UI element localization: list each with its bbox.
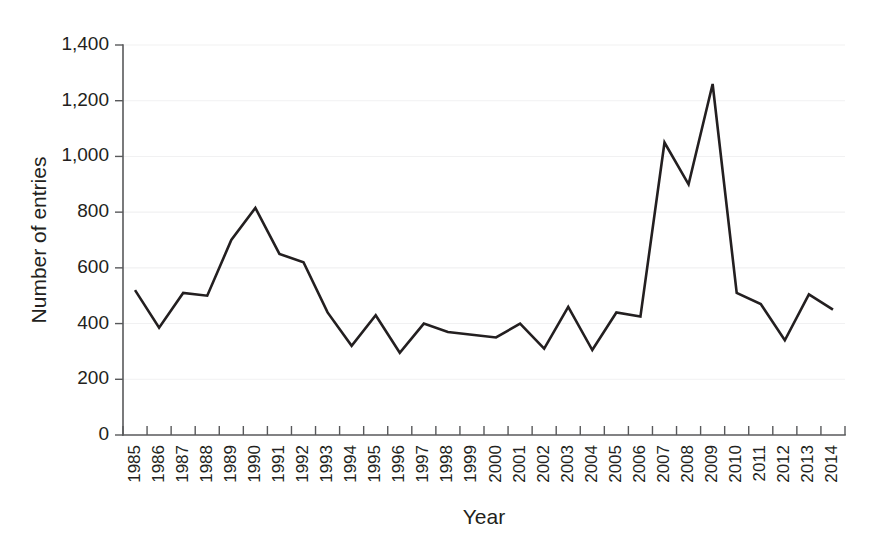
x-tick-label: 1997	[413, 445, 432, 483]
x-tick-label: 2003	[558, 445, 577, 483]
x-tick-label: 1988	[197, 445, 216, 483]
y-tick-label: 600	[77, 256, 109, 277]
gridlines	[123, 45, 845, 379]
x-tick-label: 1993	[317, 445, 336, 483]
y-tick-label: 1,200	[61, 89, 109, 110]
x-tick-label: 1985	[125, 445, 144, 483]
x-tick-label: 1986	[149, 445, 168, 483]
x-tick-label: 1998	[437, 445, 456, 483]
x-tick-label: 2013	[798, 445, 817, 483]
x-tick-label: 2007	[654, 445, 673, 483]
x-tick-label: 1987	[173, 445, 192, 483]
y-tick-label: 800	[77, 200, 109, 221]
y-axis-title: Number of entries	[27, 157, 50, 324]
x-tick-label: 2009	[702, 445, 721, 483]
x-tick-label: 2001	[510, 445, 529, 483]
x-tick-label: 1995	[365, 445, 384, 483]
x-tick-label: 2008	[678, 445, 697, 483]
chart-figure: 02004006008001,0001,2001,400 19851986198…	[0, 0, 880, 550]
x-tick-label: 1999	[461, 445, 480, 483]
line-chart: 02004006008001,0001,2001,400 19851986198…	[0, 0, 880, 550]
x-axis-title: Year	[463, 505, 505, 528]
x-tick-label: 2010	[726, 445, 745, 483]
x-tick-label: 2012	[774, 445, 793, 483]
y-axis-tick-labels: 02004006008001,0001,2001,400	[61, 33, 109, 444]
y-tick-label: 1,400	[61, 33, 109, 54]
x-tick-label: 2002	[534, 445, 553, 483]
x-tick-label: 2014	[822, 445, 841, 483]
y-tick-label: 0	[98, 423, 109, 444]
x-axis-tick-labels: 1985198619871988198919901991199219931994…	[125, 445, 842, 483]
y-tick-label: 200	[77, 367, 109, 388]
x-tick-label: 2006	[630, 445, 649, 483]
x-axis-ticks	[123, 426, 845, 435]
x-tick-label: 1990	[245, 445, 264, 483]
x-tick-label: 2004	[582, 445, 601, 483]
x-tick-label: 1994	[341, 445, 360, 483]
x-tick-label: 1991	[269, 445, 288, 483]
y-tick-label: 1,000	[61, 144, 109, 165]
y-axis-ticks	[115, 45, 123, 435]
x-tick-label: 1989	[221, 445, 240, 483]
x-tick-label: 1992	[293, 445, 312, 483]
x-tick-label: 2000	[486, 445, 505, 483]
x-tick-label: 2005	[606, 445, 625, 483]
y-tick-label: 400	[77, 312, 109, 333]
data-series-line	[135, 84, 833, 353]
x-tick-label: 2011	[750, 445, 769, 482]
x-tick-label: 1996	[389, 445, 408, 483]
